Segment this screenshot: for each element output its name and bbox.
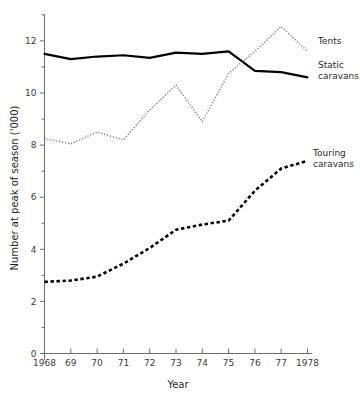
label-touring-line1: Touring xyxy=(312,148,346,158)
x-tick-label-group: 19686970717273747576771978 xyxy=(33,358,319,368)
x-tick-label: 73 xyxy=(170,358,181,368)
y-tick-label: 4 xyxy=(31,245,37,255)
label-static-line2: caravans xyxy=(318,71,359,81)
y-tick-group xyxy=(40,15,45,354)
label-tents: Tents xyxy=(317,36,342,46)
x-tick-label: 74 xyxy=(197,358,209,368)
x-tick-label: 77 xyxy=(275,358,286,368)
series-line-static-caravans xyxy=(45,51,308,77)
x-tick-label: 76 xyxy=(249,358,261,368)
series-annotations: Tents Static caravans Touring caravans xyxy=(312,36,359,169)
line-chart: 024681012 19686970717273747576771978 Ten… xyxy=(0,0,360,394)
series-line-touring-caravans xyxy=(45,161,308,282)
x-tick-label: 69 xyxy=(65,358,77,368)
y-tick-label: 10 xyxy=(25,88,37,98)
x-tick-label: 71 xyxy=(118,358,129,368)
x-tick-label: 72 xyxy=(144,358,155,368)
x-tick-label: 1968 xyxy=(33,358,56,368)
y-axis: 024681012 xyxy=(25,14,44,360)
chart-canvas: 024681012 19686970717273747576771978 Ten… xyxy=(0,0,360,394)
x-axis: 19686970717273747576771978 xyxy=(33,349,319,368)
series-line-tents xyxy=(45,27,308,144)
y-axis-title: Number at peak of season ('000) xyxy=(9,105,20,270)
label-static-line1: Static xyxy=(318,60,344,70)
x-tick-label: 70 xyxy=(91,358,103,368)
x-axis-title: Year xyxy=(166,379,189,390)
plot-series xyxy=(45,27,308,282)
y-tick-label: 12 xyxy=(25,36,36,46)
y-tick-label-group: 024681012 xyxy=(25,36,37,359)
x-tick-group xyxy=(45,349,308,354)
y-tick-label: 2 xyxy=(31,297,37,307)
label-touring-line2: caravans xyxy=(313,159,354,169)
y-tick-label: 8 xyxy=(31,140,37,150)
x-tick-label: 1978 xyxy=(296,358,319,368)
y-tick-label: 6 xyxy=(31,192,37,202)
x-tick-label: 75 xyxy=(223,358,234,368)
